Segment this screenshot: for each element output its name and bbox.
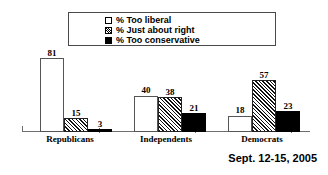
legend-label-too-conservative: % Too conservative — [116, 35, 200, 45]
bar-value-label: 15 — [64, 108, 88, 118]
bar-republicans-too-liberal — [40, 58, 64, 132]
bar-democrats-too-conservative — [276, 111, 300, 132]
bar-value-label: 3 — [88, 119, 112, 129]
bar-value-label: 81 — [40, 48, 64, 58]
bar-democrats-too-liberal — [228, 116, 252, 132]
legend-item-too-liberal: % Too liberal — [105, 15, 200, 25]
bar-value-label: 57 — [252, 70, 276, 80]
category-label-republicans: Republicans — [22, 134, 118, 144]
bar-chart: % Too liberal % Just about right % Too c… — [0, 0, 328, 175]
legend-item-just-about-right: % Just about right — [105, 25, 200, 35]
bar-value-label: 21 — [182, 103, 206, 113]
survey-date-note: Sept. 12-15, 2005 — [228, 152, 317, 164]
legend-item-too-conservative: % Too conservative — [105, 35, 200, 45]
bar-republicans-just-about-right — [64, 118, 88, 132]
legend-swatch-hatch-icon — [105, 27, 112, 34]
bar-independents-too-liberal — [134, 96, 158, 132]
bar-value-label: 38 — [158, 87, 182, 97]
plot-area: 81 15 3 40 38 21 18 57 23 — [22, 50, 310, 132]
bar-value-label: 23 — [276, 101, 300, 111]
legend-label-too-liberal: % Too liberal — [116, 15, 171, 25]
legend-swatch-white-icon — [105, 17, 112, 24]
bar-independents-just-about-right — [158, 97, 182, 132]
bar-value-label: 40 — [134, 85, 158, 95]
bar-value-label: 18 — [228, 105, 252, 115]
bar-democrats-just-about-right — [252, 80, 276, 132]
bar-independents-too-conservative — [182, 113, 206, 132]
category-label-democrats: Democrats — [214, 134, 310, 144]
legend-item-list: % Too liberal % Just about right % Too c… — [105, 15, 200, 45]
legend-swatch-black-icon — [105, 37, 112, 44]
chart-legend: % Too liberal % Just about right % Too c… — [68, 12, 276, 46]
category-label-independents: Independents — [118, 134, 214, 144]
legend-label-just-about-right: % Just about right — [116, 25, 195, 35]
bar-republicans-too-conservative — [88, 129, 112, 132]
